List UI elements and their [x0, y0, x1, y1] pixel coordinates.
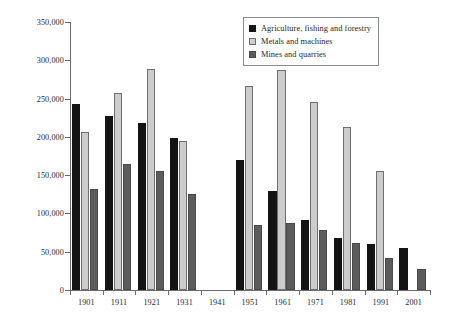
x-axis-tick-label: 1901: [78, 298, 95, 307]
bar: [138, 123, 146, 290]
bar: [352, 243, 360, 290]
bar: [319, 230, 327, 290]
bar: [72, 104, 80, 290]
bar-group: [168, 22, 201, 290]
bar: [123, 164, 131, 290]
x-axis-tick: [103, 290, 104, 295]
bar: [188, 194, 196, 290]
bar: [147, 69, 155, 290]
bar: [254, 225, 262, 290]
bar: [301, 220, 309, 290]
bar: [236, 160, 244, 290]
x-axis-tick-label: 1911: [111, 298, 127, 307]
bar: [310, 102, 318, 290]
y-axis-tick-label: 350,000: [37, 18, 64, 27]
bar: [105, 116, 113, 290]
bar-group: [70, 22, 103, 290]
x-axis-tick-label: 1971: [307, 298, 324, 307]
legend-item: Mines and quarries: [249, 48, 371, 61]
bar: [81, 132, 89, 290]
bar-chart: 050,000100,000150,000200,000250,000300,0…: [0, 0, 449, 326]
x-axis-tick: [70, 290, 71, 295]
x-axis-tick-label: 1951: [242, 298, 259, 307]
y-axis-tick-label: 200,000: [37, 132, 64, 141]
bar: [277, 70, 285, 290]
y-axis-tick-label: 100,000: [37, 209, 64, 218]
y-axis-tick-label: 50,000: [41, 247, 64, 256]
x-axis-tick-label: 1921: [143, 298, 160, 307]
x-axis-tick-label: 1981: [340, 298, 357, 307]
x-axis-tick: [332, 290, 333, 295]
x-axis-line: [70, 290, 430, 291]
x-axis-tick: [365, 290, 366, 295]
bar: [114, 93, 122, 290]
x-axis-tick: [430, 290, 431, 295]
x-axis-tick-label: 1931: [176, 298, 193, 307]
bar: [286, 223, 294, 290]
x-axis-tick-label: 2001: [405, 298, 422, 307]
bar: [90, 189, 98, 290]
legend-label-metals: Metals and machines: [261, 37, 333, 46]
y-axis-scale: 050,000100,000150,000200,000250,000300,0…: [0, 22, 70, 290]
x-axis-tick: [201, 290, 202, 295]
x-axis-tick: [299, 290, 300, 295]
y-axis-tick-label: 150,000: [37, 171, 64, 180]
bar: [385, 258, 393, 290]
bar-group: [103, 22, 136, 290]
bar: [156, 171, 164, 290]
legend-label-mines: Mines and quarries: [261, 50, 326, 59]
legend-swatch-agriculture: [249, 25, 256, 32]
x-axis-tick-label: 1941: [209, 298, 226, 307]
bar: [268, 191, 276, 290]
chart-legend: Agriculture, fishing and forestry Metals…: [243, 17, 379, 66]
bar-group: [135, 22, 168, 290]
y-axis-tick-label: 250,000: [37, 94, 64, 103]
bar: [170, 138, 178, 290]
x-axis-tick: [135, 290, 136, 295]
y-axis-tick-label: 300,000: [37, 56, 64, 65]
x-axis-tick: [234, 290, 235, 295]
legend-item: Agriculture, fishing and forestry: [249, 22, 371, 35]
bar: [399, 248, 407, 290]
legend-swatch-mines: [249, 51, 256, 58]
legend-label-agriculture: Agriculture, fishing and forestry: [261, 24, 371, 33]
bar-group: [397, 22, 430, 290]
bar: [334, 238, 342, 290]
legend-item: Metals and machines: [249, 35, 371, 48]
legend-swatch-metals: [249, 38, 256, 45]
bar-group: [201, 22, 234, 290]
bar: [417, 269, 425, 290]
bar: [367, 244, 375, 290]
bar: [376, 171, 384, 290]
x-axis-tick-label: 1991: [373, 298, 390, 307]
bar: [245, 86, 253, 290]
x-axis-tick: [168, 290, 169, 295]
x-axis-tick: [266, 290, 267, 295]
y-axis-tick-label: 0: [60, 286, 64, 295]
x-axis-tick: [397, 290, 398, 295]
bar: [343, 127, 351, 290]
bar: [179, 141, 187, 290]
x-axis-tick-label: 1961: [274, 298, 291, 307]
